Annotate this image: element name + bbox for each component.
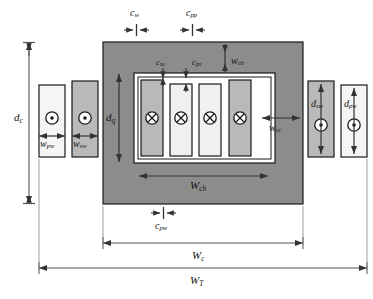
label-w-cc: wcc	[269, 123, 282, 134]
label-c-ps: cps	[192, 58, 201, 68]
label-big-w-cb: Wcb	[190, 180, 206, 193]
label-big-w-t: WT	[190, 275, 203, 288]
cross-marker-1	[146, 112, 158, 124]
label-w-cb: wcb	[231, 56, 244, 67]
cross-marker-2	[175, 112, 187, 124]
label-c-w: cw	[130, 8, 139, 19]
label-c-pw: cpw	[155, 221, 167, 232]
dot-marker-left-2	[79, 112, 91, 124]
dimension-big-w-t	[39, 262, 367, 274]
label-d-sw: dsw	[311, 99, 323, 110]
cross-marker-3	[204, 112, 216, 124]
cross-marker-4	[234, 112, 246, 124]
dimension-d-c	[23, 42, 35, 204]
dimension-c-pp	[180, 24, 205, 36]
label-big-w-c: Wc	[192, 250, 204, 263]
dimension-big-w-c	[103, 237, 303, 249]
label-w-pw: wpw	[40, 139, 54, 150]
label-d-c: dc	[14, 112, 23, 125]
label-c-pp: cpp	[186, 8, 197, 19]
dimension-c-w	[124, 24, 149, 36]
dimension-c-pw	[151, 207, 176, 219]
dot-marker-left-1	[46, 112, 58, 124]
label-w-sw: wsw	[73, 139, 87, 150]
diagram-svg	[0, 0, 373, 299]
label-d-q: dq	[106, 112, 115, 125]
label-c-ss: css	[156, 58, 165, 68]
figure-canvas: cw cpp css cps wcb dc dq wpw wsw wcc dsw…	[0, 0, 373, 299]
label-d-pw: dpw	[344, 99, 357, 110]
